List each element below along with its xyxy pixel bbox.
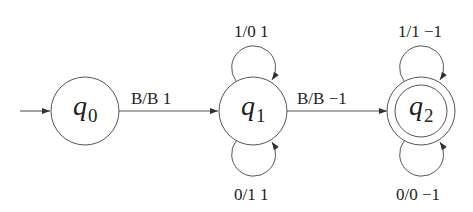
loop-q2-bottom-label: 0/0 −1 (396, 185, 440, 204)
loop-q1-bottom-label: 0/1 1 (234, 185, 268, 204)
edge-q1-q2-label: B/B −1 (297, 89, 347, 108)
state-q0-letter: q (73, 90, 87, 121)
svg-text:q1: q1 (241, 90, 266, 126)
state-q0-sub: 0 (88, 105, 98, 126)
state-q2-letter: q (409, 90, 423, 121)
state-q1: q1 (219, 77, 287, 145)
svg-text:q2: q2 (409, 90, 434, 126)
loop-q2-top (400, 46, 444, 81)
loop-q2-top-label: 1/1 −1 (398, 22, 442, 41)
state-q2: q2 (387, 77, 455, 145)
state-q1-letter: q (241, 90, 255, 121)
loop-q1-top-label: 1/0 1 (234, 22, 268, 41)
loop-q1-bottom (232, 141, 276, 176)
state-q0: q0 (51, 77, 119, 145)
edge-q0-q1-label: B/B 1 (131, 89, 171, 108)
loop-q2-bottom (400, 141, 444, 176)
state-diagram: q0 B/B 1 q1 1/0 1 0/1 1 B/B −1 q2 1/1 −1… (0, 0, 473, 212)
svg-text:q0: q0 (73, 90, 98, 126)
loop-q1-top (232, 46, 276, 81)
state-q2-sub: 2 (424, 105, 434, 126)
state-q1-sub: 1 (256, 105, 266, 126)
